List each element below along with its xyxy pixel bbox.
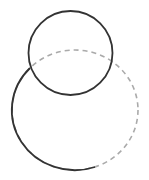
diagram-canvas <box>0 0 149 180</box>
small-circle <box>29 11 113 95</box>
large-circle-visible-arc <box>12 68 95 170</box>
circles-diagram <box>0 0 149 180</box>
